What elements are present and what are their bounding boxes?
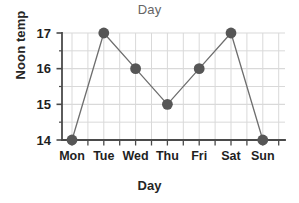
data-point-sun: [257, 135, 268, 146]
y-axis-tick-labels: 17161514: [37, 26, 52, 148]
y-tick-label-16: 16: [37, 61, 51, 76]
x-tick-label-fri: Fri: [191, 149, 207, 163]
x-tick-label-mon: Mon: [59, 149, 85, 163]
data-point-fri: [194, 63, 205, 74]
data-point-mon: [67, 135, 78, 146]
data-point-tue: [98, 28, 109, 39]
x-tick-label-sun: Sun: [251, 149, 275, 163]
y-tick-label-14: 14: [37, 133, 52, 148]
x-tick-label-sat: Sat: [221, 149, 241, 163]
x-tick-label-tue: Tue: [93, 149, 114, 163]
y-tick-label-17: 17: [37, 26, 51, 41]
x-axis-tick-labels: MonTueWedThuFriSatSun: [59, 149, 274, 163]
plot-area: 17161514 MonTueWedThuFriSatSun: [0, 0, 299, 203]
data-point-thu: [162, 99, 173, 110]
data-point-sat: [226, 28, 237, 39]
line-chart-figure: Day Noon temp Day 17161514 MonTueWedThuF…: [0, 0, 299, 203]
data-point-wed: [130, 63, 141, 74]
x-tick-label-thu: Thu: [156, 149, 179, 163]
y-tick-label-15: 15: [37, 97, 51, 112]
x-tick-label-wed: Wed: [123, 149, 149, 163]
